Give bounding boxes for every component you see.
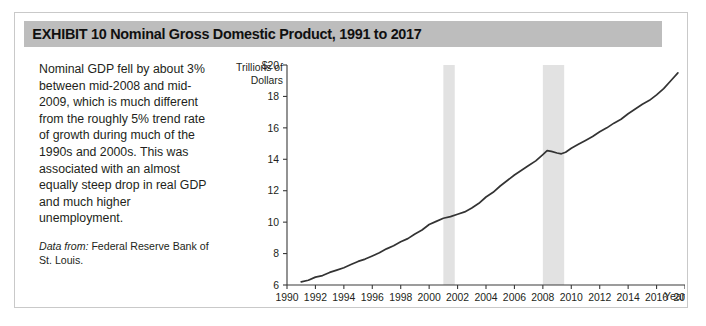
y-tick-label: 10	[267, 217, 279, 228]
x-axis-title: Year	[664, 291, 685, 302]
x-tick-label: 2012	[588, 292, 611, 303]
caption-block: Nominal GDP fell by about 3% between mid…	[39, 61, 217, 267]
caption-source: Data from: Federal Reserve Bank of St. L…	[39, 240, 217, 267]
source-label: Data from:	[39, 240, 88, 252]
x-tick-label: 2000	[418, 292, 441, 303]
chart-ticks	[283, 65, 685, 289]
recession-band	[443, 65, 454, 285]
x-tick-label: 2008	[531, 292, 554, 303]
x-tick-label: 2006	[503, 292, 526, 303]
x-tick-label: 1996	[361, 292, 384, 303]
chart-axes	[287, 65, 685, 285]
y-tick-label: 14	[267, 154, 279, 165]
y-axis-title-line2: Dollars	[251, 75, 283, 86]
y-tick-label: 8	[273, 248, 279, 259]
y-tick-label: 16	[267, 123, 279, 134]
exhibit-container: EXHIBIT 10 Nominal Gross Domestic Produc…	[14, 12, 688, 308]
y-axis-title-line1: Trillions of	[236, 62, 283, 73]
x-tick-label: 2002	[446, 292, 469, 303]
x-tick-label: 2010	[560, 292, 583, 303]
exhibit-title: EXHIBIT 10 Nominal Gross Domestic Produc…	[24, 25, 422, 43]
y-tick-label: 6	[273, 280, 279, 291]
y-tick-label: 18	[267, 91, 279, 102]
caption-body-text: Nominal GDP fell by about 3% between mid…	[39, 61, 217, 227]
x-tick-label: 1994	[332, 292, 355, 303]
x-tick-label: 1992	[304, 292, 327, 303]
gdp-line-chart: 681012141618$201990199219941996199820002…	[219, 57, 685, 305]
chart-tick-labels: 681012141618$201990199219941996199820002…	[262, 60, 685, 303]
exhibit-title-banner: EXHIBIT 10 Nominal Gross Domestic Produc…	[24, 21, 662, 47]
x-tick-label: 2004	[474, 292, 497, 303]
x-tick-label: 2014	[617, 292, 640, 303]
gdp-series-line	[301, 73, 678, 282]
chart-svg: 681012141618$201990199219941996199820002…	[219, 57, 685, 305]
x-tick-label: 1998	[389, 292, 412, 303]
recession-bands-group	[443, 65, 564, 285]
x-tick-label: 1990	[275, 292, 298, 303]
recession-band	[543, 65, 564, 285]
y-tick-label: 12	[267, 185, 279, 196]
